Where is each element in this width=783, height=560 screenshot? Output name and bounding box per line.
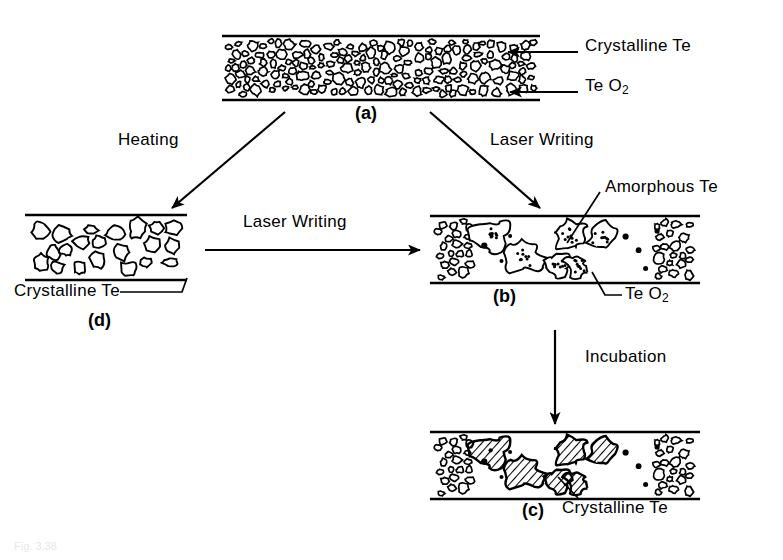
figure-caption-faint: Fig. 3.38 [14,540,57,552]
process-diagram-svg [0,0,783,560]
panel-label-b: (b) [493,286,516,307]
arrow-label-laser-writing-d-b: Laser Writing [243,212,347,232]
panel-b-content [434,218,695,280]
heating-arrow [172,112,285,208]
teo2-subscript-b: 2 [662,291,669,305]
callout-crystalline-te-a: Crystalline Te [585,36,691,56]
panel-label-d: (d) [88,310,111,331]
process-arrows [172,112,555,424]
panel-label-c: (c) [522,500,544,521]
callout-crystalline-te-c: Crystalline Te [562,498,668,518]
callout-teo2-a: Te O2 [585,76,629,97]
panel-c-content [434,434,695,496]
panel-a-fine-grains [225,39,537,98]
callout-amorphous-te: Amorphous Te [605,177,718,197]
teo2-subscript-a: 2 [622,83,629,97]
panel-a-group [222,36,540,100]
panel-b-group [430,192,700,295]
arrow-label-heating: Heating [118,130,179,150]
laser-writing-arrow-a-to-b [430,112,540,208]
arrow-label-incubation: Incubation [585,347,666,367]
panel-c-group [430,432,700,499]
arrow-label-laser-writing-a-b: Laser Writing [490,130,594,150]
figure-canvas: Crystalline Te Te O2 Amorphous Te Te O2 … [0,0,783,560]
panel-label-a: (a) [355,103,377,124]
callout-crystalline-te-d: Crystalline Te [14,281,120,301]
panel-d-coarse-grains [31,216,182,275]
callout-teo2-b: Te O2 [625,284,669,305]
